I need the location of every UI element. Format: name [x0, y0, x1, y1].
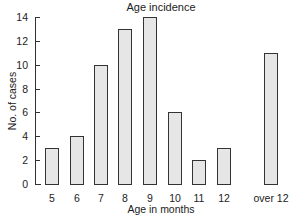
x-tick-label: 12 — [204, 192, 244, 204]
bar-8 — [118, 29, 132, 185]
y-tick-label: 8 — [2, 84, 28, 94]
y-tick-mark — [35, 184, 40, 185]
bar-9 — [143, 17, 157, 185]
y-tick-mark — [35, 136, 40, 137]
y-tick-mark — [35, 65, 40, 66]
y-axis-label: No. of cases — [6, 61, 18, 141]
y-tick-mark — [35, 160, 40, 161]
y-tick-label: 12 — [2, 36, 28, 46]
chart-title: Age incidence — [0, 1, 292, 13]
bar-6 — [70, 136, 84, 185]
y-tick-label: 2 — [2, 155, 28, 165]
y-tick-label: 4 — [2, 131, 28, 141]
bar-5 — [45, 148, 59, 185]
y-tick-label: 6 — [2, 107, 28, 117]
y-tick-mark — [35, 17, 40, 18]
y-tick-mark — [35, 112, 40, 113]
y-tick-label: 10 — [2, 60, 28, 70]
x-axis-label: Age in months — [0, 203, 292, 215]
bar-over-12 — [264, 53, 278, 185]
bar-12 — [217, 148, 231, 185]
bar-11 — [192, 160, 206, 185]
y-tick-label: 14 — [2, 12, 28, 22]
bar-10 — [168, 112, 182, 185]
y-tick-label: 0 — [2, 179, 28, 189]
y-tick-mark — [35, 41, 40, 42]
x-tick-label: over 12 — [251, 192, 291, 204]
y-tick-mark — [35, 89, 40, 90]
bar-7 — [94, 65, 108, 185]
